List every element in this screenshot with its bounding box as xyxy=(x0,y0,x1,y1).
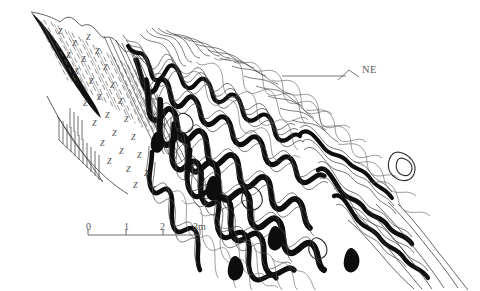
z-symbol: Z xyxy=(92,119,97,128)
z-symbol: Z xyxy=(81,55,86,64)
z-symbol: Z xyxy=(119,147,124,156)
z-symbol: Z xyxy=(105,111,110,120)
z-symbol: Z xyxy=(107,157,112,166)
z-symbol: Z xyxy=(126,165,131,174)
z-symbol: Z xyxy=(131,133,136,142)
scale-label-1: 1 xyxy=(124,221,129,232)
scale-label-0: 0 xyxy=(86,221,91,232)
z-symbol: Z xyxy=(124,115,129,124)
z-symbol: Z xyxy=(118,97,123,106)
z-symbol: Z xyxy=(72,39,77,48)
z-symbol: Z xyxy=(89,77,94,86)
scale-label-3: 3m xyxy=(193,221,206,232)
z-symbol: Z xyxy=(74,67,79,76)
z-symbol: Z xyxy=(83,99,88,108)
z-symbol: Z xyxy=(86,33,91,42)
z-symbol: Z xyxy=(112,129,117,138)
z-symbol: Z xyxy=(58,27,63,36)
z-symbol: Z xyxy=(133,181,138,190)
z-symbol: Z xyxy=(95,47,100,56)
z-symbol: Z xyxy=(103,63,108,72)
scale-label-2: 2 xyxy=(160,221,165,232)
direction-label: NE xyxy=(362,64,377,75)
z-symbol: Z xyxy=(137,151,142,160)
z-symbol: Z xyxy=(100,139,105,148)
z-symbol: Z xyxy=(66,51,71,60)
z-symbol: Z xyxy=(110,81,115,90)
z-symbol: Z xyxy=(97,93,102,102)
fold-sketch-figure: Z Z Z Z Z Z Z Z Z Z Z Z Z Z Z Z Z Z Z Z … xyxy=(0,0,480,291)
